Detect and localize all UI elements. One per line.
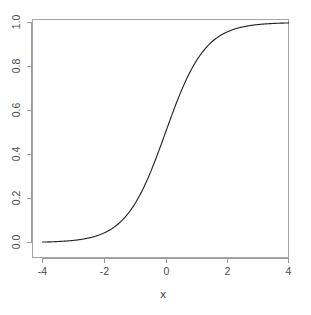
y-tick-label-0.8: 0.8 xyxy=(10,59,22,74)
x-tick-label-0: 0 xyxy=(164,265,170,277)
x-tick-label--4: -4 xyxy=(38,265,47,277)
y-tick-label-0.4: 0.4 xyxy=(10,147,22,162)
x-tick-label-4: 4 xyxy=(286,265,292,277)
y-tick-label-0.2: 0.2 xyxy=(10,191,22,206)
x-axis-title: x xyxy=(160,288,166,300)
chart-figure: 1.0 0.8 0.6 0.4 0.2 0.0 -4 -2 0 2 4 x xyxy=(0,0,311,315)
y-tick-label-0.6: 0.6 xyxy=(10,103,22,118)
x-tick-label--2: -2 xyxy=(100,265,109,277)
y-tick-label-0.0: 0.0 xyxy=(10,235,22,250)
y-tick-label-1.0: 1.0 xyxy=(10,15,22,30)
logistic-curve-plot: 1.0 0.8 0.6 0.4 0.2 0.0 -4 -2 0 2 4 x xyxy=(0,0,311,315)
x-tick-label-2: 2 xyxy=(225,265,231,277)
